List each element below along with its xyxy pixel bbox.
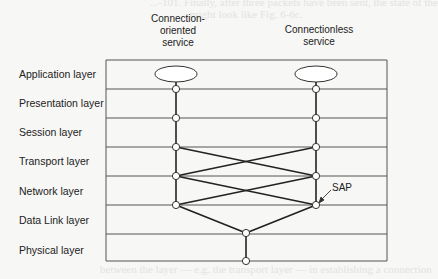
sap-node	[312, 172, 319, 179]
sap-node	[312, 201, 319, 208]
sap-node	[312, 143, 319, 150]
application-entity-connection-oriented	[155, 66, 197, 82]
sap-node	[312, 85, 319, 92]
sap-node	[172, 172, 179, 179]
sap-annotation: SAP	[332, 182, 352, 193]
sap-node	[242, 229, 249, 236]
sap-node	[312, 114, 319, 121]
sap-node	[172, 201, 179, 208]
sap-node	[172, 114, 179, 121]
application-entity-connectionless	[295, 66, 337, 82]
sap-node	[172, 85, 179, 92]
sap-node	[242, 257, 249, 264]
sap-pointer-arrow	[319, 190, 331, 203]
sap-node	[172, 143, 179, 150]
